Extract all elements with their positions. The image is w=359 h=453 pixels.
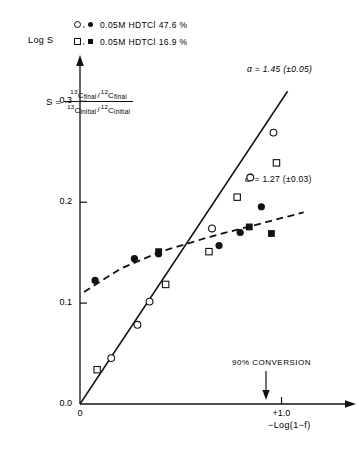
y-axis-arrowhead xyxy=(76,55,84,66)
x-tick-label: 0 xyxy=(60,408,100,418)
data-point-open-square xyxy=(94,366,100,372)
data-point-filled-square xyxy=(268,230,275,237)
data-point-open-square xyxy=(234,194,240,200)
data-point-open-circle xyxy=(108,355,115,362)
data-point-open-circle xyxy=(247,174,254,181)
data-point-open-circle xyxy=(134,321,141,328)
chart-figure: , 0.05M HDTCl 47.6 % , 0.05M HDTCl 16.9 … xyxy=(0,0,359,453)
y-tick-label: 0.1 xyxy=(46,297,72,307)
data-point-filled-circle xyxy=(92,277,99,284)
data-point-filled-square xyxy=(246,224,253,231)
data-point-filled-square xyxy=(155,248,162,255)
y-tick-label: 0.3 xyxy=(46,95,72,105)
alpha-prime-curve xyxy=(84,212,304,292)
data-point-open-square xyxy=(273,160,279,166)
data-point-filled-circle xyxy=(131,255,138,262)
data-point-filled-circle xyxy=(237,229,244,236)
conversion-arrow-head xyxy=(262,390,269,400)
y-tick-label: 0.0 xyxy=(46,398,72,408)
data-points-group xyxy=(92,129,280,373)
plot-canvas xyxy=(0,0,359,453)
data-point-filled-circle xyxy=(215,242,222,249)
data-point-open-circle xyxy=(209,225,216,232)
y-tick-label: 0.2 xyxy=(46,196,72,206)
x-tick-label: +1.0 xyxy=(262,408,302,418)
axes-group xyxy=(76,55,356,408)
data-point-open-circle xyxy=(270,129,277,136)
data-point-filled-circle xyxy=(258,203,265,210)
data-point-open-square xyxy=(162,281,168,287)
data-point-open-circle xyxy=(146,298,153,305)
data-point-open-square xyxy=(206,248,212,254)
x-axis-arrowhead xyxy=(345,400,356,407)
conversion-marker-group xyxy=(262,371,269,400)
